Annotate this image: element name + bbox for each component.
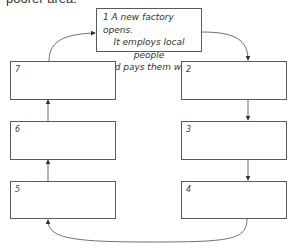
step-number: 6 [15, 125, 20, 134]
box-step-6[interactable]: 6 [10, 121, 116, 160]
step-number: 7 [15, 65, 20, 74]
box-step-7[interactable]: 7 [10, 61, 116, 100]
box-step-5[interactable]: 5 [10, 181, 116, 219]
box-step-3[interactable]: 3 [181, 121, 287, 160]
step-1-line-2: It employs local people [97, 36, 201, 61]
step-number: 4 [186, 185, 191, 194]
step-number: 2 [186, 65, 191, 74]
step-number: 3 [186, 125, 191, 134]
box-step-4[interactable]: 4 [181, 181, 287, 219]
box-step-1: 1 A new factory opens. It employs local … [96, 8, 202, 52]
step-1-line-1: 1 A new factory opens. [97, 11, 201, 36]
step-number: 5 [15, 185, 20, 194]
box-step-2[interactable]: 2 [181, 61, 287, 100]
